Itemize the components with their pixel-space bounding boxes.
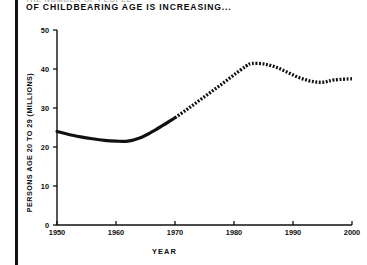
- x-axis-tick-label: 1970: [160, 228, 190, 237]
- series-projected-line: [175, 63, 352, 117]
- x-axis-tick-label: 1960: [101, 228, 131, 237]
- x-axis-tick-label: 1980: [219, 228, 249, 237]
- y-axis-title: PERSONS AGE 20 TO 29 (MILLIONS): [25, 58, 34, 228]
- chart-svg: [0, 0, 367, 265]
- axis-lines: [57, 30, 352, 225]
- chart-figure: THE NUMBER OF PEOPLE OF CHILDBEARING AGE…: [0, 0, 367, 265]
- series-actual-line: [57, 118, 175, 142]
- x-axis-tick-label: 1950: [42, 228, 72, 237]
- y-axis-tick-label: 50: [27, 26, 49, 35]
- x-axis-tick-label: 1990: [278, 228, 308, 237]
- x-axis-title: YEAR: [152, 247, 177, 256]
- x-axis-tick-label: 2000: [337, 228, 367, 237]
- plot-area: 01020304050 195019601970198019902000 PER…: [0, 0, 367, 265]
